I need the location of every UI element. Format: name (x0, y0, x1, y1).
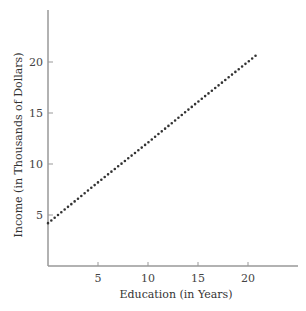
x-axis-label: Education (in Years) (120, 288, 233, 301)
y-tick-label: 20 (29, 56, 43, 69)
dotted-trend-line (48, 54, 258, 223)
axes (48, 10, 298, 266)
y-tick-label: 15 (29, 107, 43, 120)
y-tick-label: 10 (29, 158, 43, 171)
axis-ticks: 51015205101520 (29, 56, 255, 285)
x-tick-label: 15 (191, 272, 205, 285)
x-tick-label: 5 (95, 272, 102, 285)
data-series (48, 54, 258, 223)
x-tick-label: 10 (141, 272, 155, 285)
y-axis-label: Income (in Thousands of Dollars) (12, 52, 25, 237)
x-tick-label: 20 (241, 272, 255, 285)
y-tick-label: 5 (36, 209, 43, 222)
line-chart: 51015205101520 Education (in Years) Inco… (0, 0, 306, 311)
